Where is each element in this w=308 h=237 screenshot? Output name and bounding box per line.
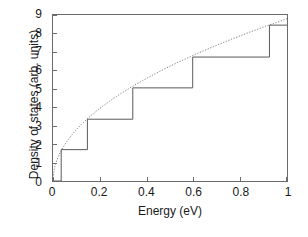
x-axis-title: Energy (eV) (52, 205, 288, 218)
x-tick-label-0: 0 (49, 186, 56, 199)
y-axis-ticks (53, 16, 57, 182)
x-tick-label-1: 0.2 (91, 186, 108, 199)
x-axis-tick-labels: 0 0.2 0.4 0.6 0.8 1 (52, 186, 288, 202)
series-quantum-well-staircase (53, 25, 287, 181)
series-bulk-sqrt-curve (53, 19, 287, 181)
chart-figure: 0 1 2 3 4 5 6 7 8 9 Density of states (a… (0, 0, 308, 237)
x-tick-label-3: 0.6 (185, 186, 202, 199)
x-tick-label-2: 0.4 (138, 186, 155, 199)
x-axis-ticks (54, 177, 287, 181)
plot-area (52, 14, 288, 182)
y-axis-title: Density of states (arb. units) (28, 5, 41, 205)
x-tick-label-5: 1 (285, 186, 292, 199)
plot-svg (53, 15, 287, 181)
x-tick-label-4: 0.8 (232, 186, 249, 199)
